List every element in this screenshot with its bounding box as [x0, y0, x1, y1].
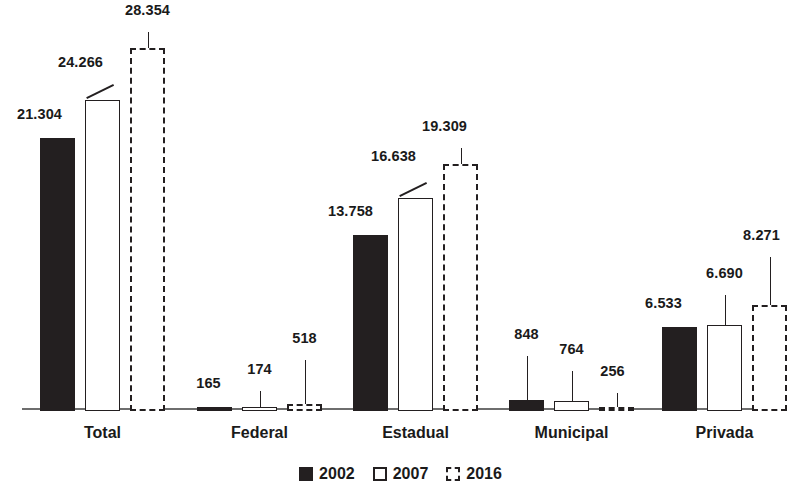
value-label-privada-2016: 8.271 — [743, 227, 780, 243]
label-leader-line — [399, 182, 427, 197]
outline-square-icon — [373, 467, 387, 481]
value-label-estadual-2007: 16.638 — [371, 148, 416, 164]
legend-item-2016[interactable]: 2016 — [446, 465, 502, 483]
label-leader-line — [725, 295, 727, 325]
plot-area: 21.30424.26628.35416517451813.75816.6381… — [0, 0, 801, 411]
label-leader-line — [148, 32, 150, 48]
value-label-total-2002: 21.304 — [17, 106, 62, 122]
label-leader-line — [572, 371, 574, 401]
legend-item-2002[interactable]: 2002 — [299, 465, 355, 483]
label-leader-line — [617, 393, 619, 407]
bar-privada-2016 — [752, 305, 787, 411]
value-label-municipal-2007: 764 — [559, 341, 584, 357]
value-label-privada-2007: 6.690 — [706, 265, 743, 281]
value-label-municipal-2016: 256 — [600, 363, 625, 379]
value-label-total-2016: 28.354 — [125, 2, 170, 18]
chart-legend: 2002 2007 2016 — [0, 465, 801, 483]
filled-square-icon — [299, 467, 313, 481]
value-label-estadual-2002: 13.758 — [328, 203, 373, 219]
legend-item-2007[interactable]: 2007 — [373, 465, 429, 483]
category-label-privada: Privada — [696, 424, 754, 442]
value-label-federal-2002: 165 — [196, 375, 221, 391]
bar-privada-2002 — [662, 327, 697, 411]
bar-federal-2007 — [242, 407, 277, 411]
value-label-federal-2016: 518 — [292, 330, 317, 346]
bar-federal-2016 — [287, 404, 322, 411]
value-label-total-2007: 24.266 — [58, 54, 103, 70]
bar-municipal-2002 — [509, 400, 544, 411]
bar-total-2016 — [130, 48, 165, 411]
label-leader-line — [770, 257, 772, 305]
bar-chart: 21.30424.26628.35416517451813.75816.6381… — [0, 0, 801, 498]
bar-estadual-2016 — [443, 164, 478, 411]
bar-estadual-2002 — [353, 235, 388, 411]
value-label-federal-2007: 174 — [247, 361, 272, 377]
category-label-estadual: Estadual — [382, 424, 449, 442]
bar-federal-2002 — [197, 407, 232, 411]
bar-privada-2007 — [707, 325, 742, 411]
dashed-square-icon — [446, 467, 460, 481]
legend-label-2002: 2002 — [319, 465, 355, 483]
label-leader-line — [461, 148, 463, 164]
label-leader-line — [260, 391, 262, 407]
legend-label-2016: 2016 — [466, 465, 502, 483]
bar-total-2002 — [40, 138, 75, 411]
bar-total-2007 — [85, 100, 120, 411]
category-label-municipal: Municipal — [535, 424, 609, 442]
label-leader-line — [86, 84, 114, 99]
value-label-estadual-2016: 19.309 — [422, 118, 467, 134]
legend-label-2007: 2007 — [393, 465, 429, 483]
category-label-total: Total — [84, 424, 121, 442]
label-leader-line — [527, 356, 529, 400]
bar-municipal-2016 — [599, 407, 634, 411]
bar-municipal-2007 — [554, 401, 589, 411]
value-label-municipal-2002: 848 — [514, 326, 539, 342]
category-label-federal: Federal — [231, 424, 288, 442]
value-label-privada-2002: 6.533 — [645, 295, 682, 311]
bar-estadual-2007 — [398, 198, 433, 411]
label-leader-line — [305, 360, 307, 404]
